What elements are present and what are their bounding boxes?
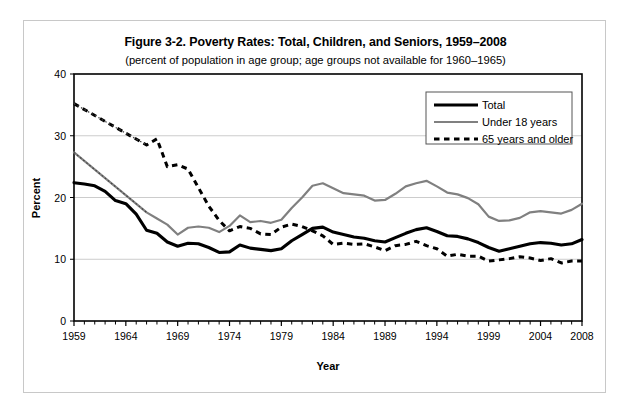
legend-label: Total [482,99,505,111]
y-axis-ticks: 010203040 [54,68,74,327]
y-tick-label: 20 [54,192,66,204]
legend-label: Under 18 years [482,116,558,128]
x-tick-label: 1974 [218,330,242,342]
poverty-rates-line-chart: 010203040 195919641969197419791984198919… [24,21,607,394]
x-tick-label: 2008 [570,330,594,342]
x-tick-label: 1969 [166,330,190,342]
y-tick-label: 0 [60,315,66,327]
x-axis-ticks: 1959196419691974197919841989199419992004… [62,321,594,342]
y-tick-label: 30 [54,130,66,142]
y-tick-label: 10 [54,253,66,265]
x-tick-label: 1984 [322,330,346,342]
chart-legend: TotalUnder 18 years65 years and older [426,92,573,145]
x-tick-label: 1979 [270,330,294,342]
x-tick-label: 1959 [62,330,86,342]
x-tick-label: 1964 [114,330,138,342]
legend-label: 65 years and older [482,133,573,145]
figure-container: Figure 3-2. Poverty Rates: Total, Childr… [23,20,606,393]
x-tick-label: 1999 [477,330,501,342]
x-axis-label: Year [316,360,340,372]
x-tick-label: 2004 [529,330,553,342]
y-tick-label: 40 [54,68,66,80]
y-axis-label: Percent [30,177,42,218]
gridlines-group [74,136,582,260]
series-line [74,152,582,234]
x-tick-label: 1994 [425,330,449,342]
x-tick-label: 1989 [373,330,397,342]
